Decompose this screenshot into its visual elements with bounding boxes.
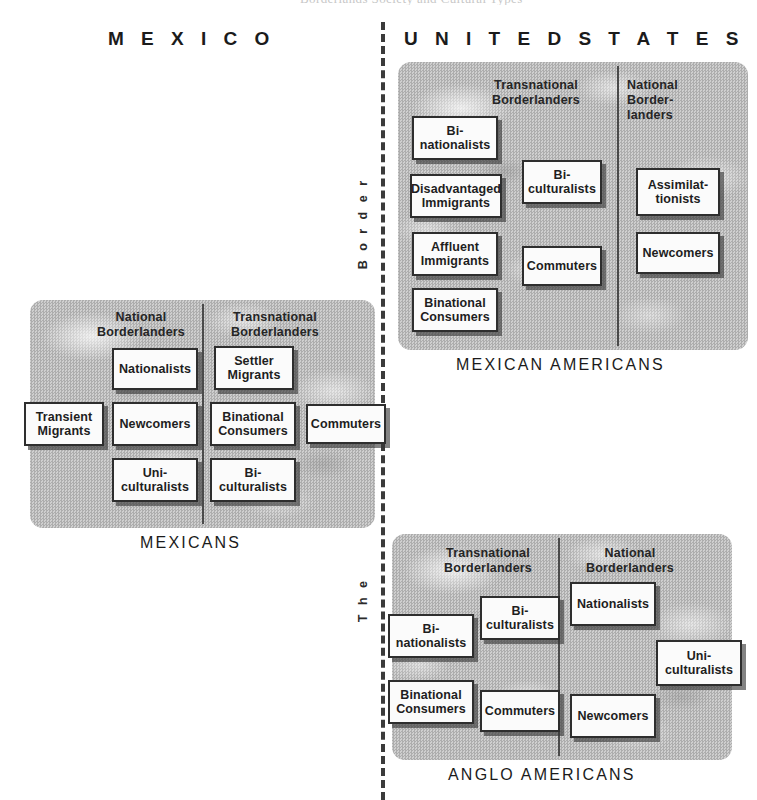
category-box-binational-consumers[interactable]: Binational Consumers — [412, 288, 498, 332]
category-box-transient-migrants[interactable]: Transient Migrants — [24, 402, 104, 446]
panel-anglo-americans: Transnational Borderlanders National Bor… — [392, 534, 732, 760]
category-box-newcomers-ma[interactable]: Newcomers — [636, 232, 720, 274]
category-box-settler-migrants[interactable]: Settler Migrants — [214, 346, 294, 390]
category-box-commuters-aa[interactable]: Commuters — [480, 690, 560, 732]
panel-divider-mexican-americans — [617, 66, 619, 346]
category-box-bi-nationalists[interactable]: Bi- nationalists — [412, 116, 498, 160]
column-heading-national-aa: National Borderlanders — [564, 546, 696, 576]
category-box-commuters[interactable]: Commuters — [522, 246, 602, 286]
panel-mexican-americans: Transnational Borderlanders National Bor… — [398, 62, 748, 350]
category-box-affluent-immigrants[interactable]: Affluent Immigrants — [412, 232, 498, 276]
panel-divider-mexicans — [202, 304, 204, 524]
group-label-anglo-americans: ANGLO AMERICANS — [448, 766, 636, 784]
category-box-binational-consumers-aa[interactable]: Binational Consumers — [388, 680, 474, 724]
border-vertical-label-the: T h e — [356, 578, 370, 622]
category-box-assimilationists[interactable]: Assimilat- tionists — [636, 168, 720, 216]
caption-remnant: Borderlands Society and Cultural Types — [300, 0, 757, 5]
category-box-newcomers-mx[interactable]: Newcomers — [112, 402, 198, 446]
category-box-bi-nationalists-aa[interactable]: Bi- nationalists — [388, 614, 474, 658]
panel-mexicans: National Borderlanders Transnational Bor… — [30, 300, 375, 528]
category-box-binational-consumers-mx[interactable]: Binational Consumers — [210, 402, 296, 446]
column-heading-transnational-mx: Transnational Borderlanders — [208, 310, 342, 340]
country-heading-united-states: U N I T E D S T A T E S — [404, 28, 744, 50]
category-box-bi-culturalists-aa[interactable]: Bi- culturalists — [480, 596, 560, 640]
category-box-uni-culturalists-mx[interactable]: Uni- culturalists — [112, 458, 198, 502]
column-heading-national-ma: National Border- landers — [627, 78, 723, 123]
column-heading-transnational-ma: Transnational Borderlanders — [466, 78, 606, 108]
category-box-bi-culturalists-mx[interactable]: Bi- culturalists — [210, 458, 296, 502]
category-box-nationalists-aa[interactable]: Nationalists — [570, 582, 656, 626]
diagram-canvas: Borderlands Society and Cultural Types M… — [0, 0, 757, 800]
category-box-disadvantaged-immigrants[interactable]: Disadvantaged Immigrants — [410, 174, 502, 218]
country-heading-mexico: M E X I C O — [108, 28, 275, 50]
column-heading-national-mx: National Borderlanders — [80, 310, 202, 340]
category-box-bi-culturalists[interactable]: Bi- culturalists — [522, 160, 602, 204]
column-heading-transnational-aa: Transnational Borderlanders — [420, 546, 556, 576]
category-box-uni-culturalists-aa[interactable]: Uni- culturalists — [656, 640, 742, 686]
border-vertical-label-border: B o r d e r — [356, 178, 370, 269]
category-box-nationalists-mx[interactable]: Nationalists — [112, 348, 198, 390]
group-label-mexicans: MEXICANS — [140, 534, 241, 552]
category-box-newcomers-aa[interactable]: Newcomers — [570, 694, 656, 738]
category-box-commuters-mx[interactable]: Commuters — [306, 404, 386, 444]
group-label-mexican-americans: MEXICAN AMERICANS — [456, 356, 665, 374]
